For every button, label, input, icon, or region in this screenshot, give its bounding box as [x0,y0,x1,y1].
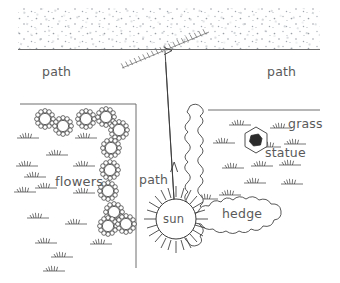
garden-diagram: path path path flowers grass statue hedg… [0,0,340,283]
label-path-left: path [42,64,71,79]
label-path-center: path [139,172,168,187]
gravel-stipple-band [18,8,320,49]
flower-cluster-group [35,107,137,237]
statue-hexagon-icon [245,127,267,153]
label-grass: grass [288,116,323,131]
label-flowers: flowers [55,174,103,189]
grass-tuft-group-left [14,133,112,271]
label-sun: sun [163,212,184,226]
label-path-right: path [267,64,296,79]
label-statue: statue [265,145,306,160]
diagram-canvas [0,0,340,283]
label-hedge: hedge [222,206,262,221]
